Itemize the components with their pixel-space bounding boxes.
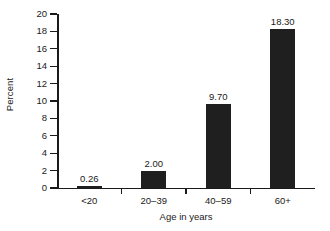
- y-axis-tick: [50, 83, 57, 84]
- y-axis-tick: [50, 31, 57, 32]
- bar: [206, 104, 231, 188]
- x-axis-category-label: 20–39: [119, 196, 189, 206]
- y-axis-tick-label: 12: [24, 79, 47, 89]
- y-axis-tick-label: 18: [24, 26, 47, 36]
- x-axis-category-label: 60+: [248, 196, 318, 206]
- y-axis-tick: [50, 135, 57, 136]
- x-axis-category-label: <20: [54, 196, 124, 206]
- x-axis-tick: [250, 188, 251, 194]
- y-axis-title: Percent: [2, 0, 18, 188]
- bar-value-label: 9.70: [188, 92, 248, 102]
- bar-value-label: 18.30: [253, 17, 313, 27]
- y-axis-title-text: Percent: [5, 77, 16, 110]
- y-axis-tick-label: 0: [24, 183, 47, 193]
- y-axis-tick: [50, 13, 57, 14]
- y-axis-tick-label: 6: [24, 131, 47, 141]
- y-axis-tick: [50, 100, 57, 101]
- y-axis-tick-label: 8: [24, 113, 47, 123]
- bar: [270, 29, 295, 188]
- bar-value-label: 0.26: [59, 174, 119, 184]
- y-axis-tick-label: 4: [24, 148, 47, 158]
- bar-value-label: 2.00: [124, 159, 184, 169]
- bar: [141, 171, 166, 188]
- y-axis-tick: [50, 170, 57, 171]
- y-axis-tick-label: 20: [24, 9, 47, 19]
- y-axis-tick: [50, 153, 57, 154]
- y-axis-line: [57, 14, 59, 189]
- y-axis-tick-label: 16: [24, 44, 47, 54]
- y-axis-tick: [50, 118, 57, 119]
- bar: [77, 186, 102, 188]
- x-axis-tick: [121, 188, 122, 194]
- y-axis-tick: [50, 187, 57, 188]
- x-axis-category-label: 40–59: [183, 196, 253, 206]
- y-axis-tick-label: 14: [24, 61, 47, 71]
- bar-chart-figure: Percent 02468101214161820 0.262.009.7018…: [0, 0, 330, 231]
- x-axis-tick: [185, 188, 186, 194]
- x-axis-title: Age in years: [57, 211, 315, 222]
- y-axis-tick-label: 2: [24, 166, 47, 176]
- y-axis-tick: [50, 48, 57, 49]
- y-axis-tick: [50, 66, 57, 67]
- y-axis-tick-label: 10: [24, 96, 47, 106]
